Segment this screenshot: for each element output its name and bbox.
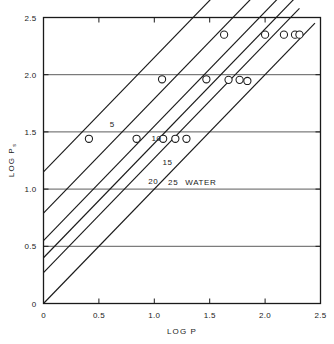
y-tick-label-1.0: 1.0 xyxy=(24,185,36,194)
x-tick-label-2.0: 2.0 xyxy=(259,311,271,320)
x-tick-label-0: 0 xyxy=(41,311,46,320)
series-label-15: 15 xyxy=(163,158,173,167)
series-label-20: 20 xyxy=(148,177,158,186)
data-line-5 xyxy=(44,0,225,172)
series-label-WATER: WATER xyxy=(185,178,216,187)
series-label-25: 25 xyxy=(168,178,178,187)
data-marker xyxy=(262,31,269,38)
data-markers-group xyxy=(85,31,303,142)
data-lines-group xyxy=(44,0,315,303)
y-tick-label-1.5: 1.5 xyxy=(24,128,36,137)
y-tick-label-2.0: 2.0 xyxy=(24,71,36,80)
y-tick-label-2.5: 2.5 xyxy=(24,14,36,23)
x-tick-label-1.0: 1.0 xyxy=(148,311,160,320)
data-line-15 xyxy=(44,0,284,241)
data-marker xyxy=(244,77,251,84)
x-axis-title: LOG P xyxy=(167,327,197,336)
series-label-5: 5 xyxy=(110,120,115,129)
data-marker xyxy=(85,135,92,142)
data-marker xyxy=(203,76,210,83)
data-line-25 xyxy=(44,8,300,272)
data-marker xyxy=(236,76,243,83)
data-marker xyxy=(133,135,140,142)
y-axis-title: LOG Ps xyxy=(7,143,17,177)
data-marker xyxy=(225,76,232,83)
x-tick-label-2.5: 2.5 xyxy=(314,311,326,320)
y-axis-title-group: LOG Ps xyxy=(7,143,17,177)
x-tick-labels: 00.51.01.52.02.5 xyxy=(41,311,327,320)
y-tick-label-0: 0 xyxy=(32,300,37,309)
data-line-WATER xyxy=(44,23,315,303)
x-tick-label-0.5: 0.5 xyxy=(93,311,105,320)
data-line-20 xyxy=(44,0,296,258)
data-marker xyxy=(221,31,228,38)
data-marker xyxy=(296,31,303,38)
log-log-plot: 00.51.01.52.02.5 00.51.01.52.02.5 510152… xyxy=(0,0,334,344)
data-marker xyxy=(183,135,190,142)
series-inline-labels: 510152025WATER xyxy=(110,120,217,187)
data-marker xyxy=(172,135,179,142)
x-tick-label-1.5: 1.5 xyxy=(204,311,216,320)
figure-container: 00.51.01.52.02.5 00.51.01.52.02.5 510152… xyxy=(0,0,334,344)
data-marker xyxy=(280,31,287,38)
y-tick-labels: 00.51.01.52.02.5 xyxy=(24,14,36,309)
y-tick-label-0.5: 0.5 xyxy=(24,242,36,251)
data-marker xyxy=(158,76,165,83)
series-label-10: 10 xyxy=(151,134,161,143)
